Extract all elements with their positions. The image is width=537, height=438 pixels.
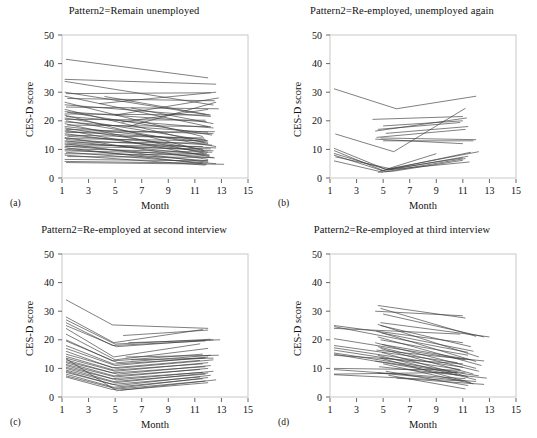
x-tick-label: 13: [216, 185, 226, 196]
y-tick-label: 40: [312, 58, 322, 69]
plot-frame: [330, 35, 516, 178]
y-tick-label: 50: [312, 30, 322, 41]
x-tick-label: 7: [139, 185, 144, 196]
x-tick-label: 15: [511, 185, 521, 196]
plot-area-d: 0102030405013579111315: [268, 219, 536, 438]
panel-letter-d: (d): [278, 417, 289, 427]
x-tick-label: 11: [190, 185, 200, 196]
y-tick-label: 10: [44, 144, 54, 155]
y-tick-label: 20: [312, 115, 322, 126]
y-tick-label: 50: [44, 249, 54, 260]
x-tick-label: 7: [407, 404, 412, 415]
x-tick-label: 13: [484, 185, 494, 196]
y-tick-label: 20: [44, 334, 54, 345]
x-tick-label: 5: [113, 185, 118, 196]
y-axis-label-a: CES-D score: [24, 81, 35, 136]
y-tick-label: 20: [312, 334, 322, 345]
x-tick-label: 15: [243, 185, 253, 196]
x-tick-label: 3: [86, 404, 91, 415]
plot-area-a: 0102030405013579111315: [0, 0, 268, 219]
y-tick-label: 0: [317, 392, 322, 403]
panel-d: Pattern2=Re-employed at third interview0…: [268, 219, 536, 438]
y-tick-label: 10: [44, 363, 54, 374]
x-axis-label-d: Month: [330, 419, 516, 430]
y-axis-label-b: CES-D score: [292, 81, 303, 136]
x-tick-label: 5: [381, 185, 386, 196]
y-tick-label: 10: [312, 363, 322, 374]
x-tick-label: 9: [434, 185, 439, 196]
x-tick-label: 3: [86, 185, 91, 196]
x-tick-label: 15: [511, 404, 521, 415]
y-tick-label: 0: [49, 392, 54, 403]
x-tick-label: 1: [328, 185, 333, 196]
x-tick-label: 11: [458, 185, 468, 196]
y-tick-label: 50: [44, 30, 54, 41]
x-tick-label: 11: [458, 404, 468, 415]
x-axis-label-c: Month: [62, 419, 248, 430]
panel-b: Pattern2=Re-employed, unemployed again01…: [268, 0, 536, 219]
figure-multi-panel-spaghetti-plot: Pattern2=Remain unemployed01020304050135…: [0, 0, 537, 438]
x-axis-label-b: Month: [330, 200, 516, 211]
x-tick-label: 7: [407, 185, 412, 196]
y-tick-label: 0: [49, 173, 54, 184]
x-tick-label: 9: [434, 404, 439, 415]
y-tick-label: 50: [312, 249, 322, 260]
panel-letter-b: (b): [278, 198, 289, 208]
y-tick-label: 40: [44, 277, 54, 288]
x-tick-label: 5: [113, 404, 118, 415]
panel-letter-c: (c): [10, 417, 21, 427]
x-tick-label: 3: [354, 185, 359, 196]
x-tick-label: 1: [328, 404, 333, 415]
x-axis-label-a: Month: [62, 200, 248, 211]
x-tick-label: 11: [190, 404, 200, 415]
trajectory-line: [66, 132, 215, 133]
y-tick-label: 30: [44, 306, 54, 317]
panel-a: Pattern2=Remain unemployed01020304050135…: [0, 0, 268, 219]
y-tick-label: 30: [44, 87, 54, 98]
plot-area-c: 0102030405013579111315: [0, 219, 268, 438]
y-tick-label: 10: [312, 144, 322, 155]
x-tick-label: 3: [354, 404, 359, 415]
x-tick-label: 7: [139, 404, 144, 415]
x-tick-label: 13: [484, 404, 494, 415]
x-tick-label: 1: [60, 404, 65, 415]
y-axis-label-d: CES-D score: [292, 300, 303, 355]
plot-area-b: 0102030405013579111315: [268, 0, 536, 219]
x-tick-label: 15: [243, 404, 253, 415]
y-tick-label: 40: [44, 58, 54, 69]
x-tick-label: 9: [166, 185, 171, 196]
y-tick-label: 40: [312, 277, 322, 288]
x-tick-label: 9: [166, 404, 171, 415]
panel-letter-a: (a): [10, 198, 21, 208]
x-tick-label: 13: [216, 404, 226, 415]
y-tick-label: 20: [44, 115, 54, 126]
y-tick-label: 30: [312, 87, 322, 98]
y-axis-label-c: CES-D score: [24, 300, 35, 355]
panel-c: Pattern2=Re-employed at second interview…: [0, 219, 268, 438]
x-tick-label: 5: [381, 404, 386, 415]
y-tick-label: 30: [312, 306, 322, 317]
y-tick-label: 0: [317, 173, 322, 184]
x-tick-label: 1: [60, 185, 65, 196]
